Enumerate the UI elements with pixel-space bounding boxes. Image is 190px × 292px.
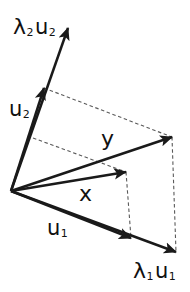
dashed-y-parallel-to-u2 bbox=[172, 137, 176, 252]
vector-u1 bbox=[11, 191, 131, 238]
vector-x bbox=[11, 172, 126, 191]
label-lambda1-u1-lambda: λ bbox=[133, 258, 146, 283]
label-lambda1-u1-lambda-sub: 1 bbox=[146, 270, 155, 283]
label-lambda2-u2-lambda: λ bbox=[13, 14, 26, 39]
label-x: x bbox=[79, 183, 92, 205]
vector-diagram-figure: λ2u2 u2 y x u1 λ1u1 bbox=[0, 0, 190, 292]
label-lambda1-u1: λ1u1 bbox=[133, 260, 177, 282]
label-lambda1-u1-vec: u bbox=[155, 259, 168, 283]
label-u1: u1 bbox=[47, 218, 69, 239]
dashed-x-parallel-to-u2 bbox=[126, 172, 131, 238]
vectors-group bbox=[11, 28, 176, 252]
label-x-text: x bbox=[79, 181, 92, 206]
label-lambda2-u2: λ2u2 bbox=[13, 16, 57, 38]
label-u1-vec: u bbox=[47, 216, 60, 240]
label-lambda2-u2-vec-sub: 2 bbox=[48, 26, 57, 39]
label-y-text: y bbox=[101, 126, 114, 151]
label-u1-sub: 1 bbox=[60, 227, 69, 240]
label-u2-vec: u bbox=[9, 97, 22, 121]
label-lambda2-u2-lambda-sub: 2 bbox=[26, 26, 35, 39]
label-lambda2-u2-vec: u bbox=[35, 15, 48, 39]
label-u2: u2 bbox=[9, 99, 31, 120]
label-y: y bbox=[101, 128, 114, 150]
label-lambda1-u1-vec-sub: 1 bbox=[168, 270, 177, 283]
label-u2-sub: 2 bbox=[22, 108, 31, 121]
vector-diagram-canvas bbox=[0, 0, 190, 292]
